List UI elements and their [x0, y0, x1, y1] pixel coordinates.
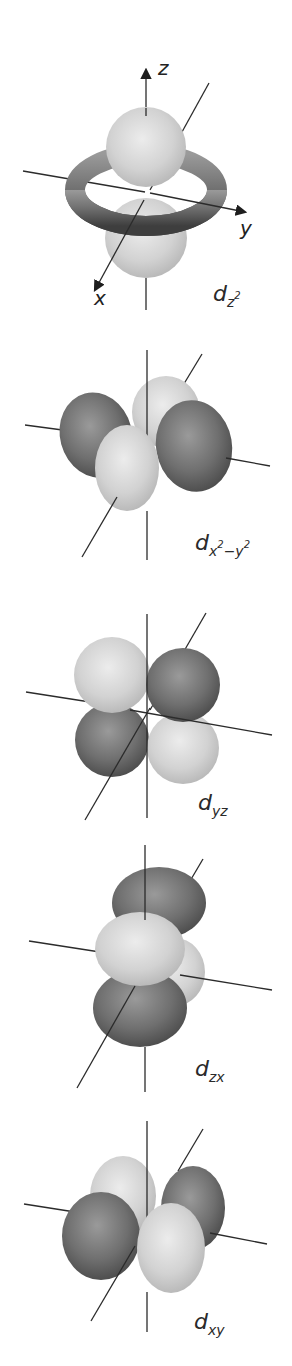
label-base: d [195, 1056, 209, 1081]
x-axis [82, 497, 117, 557]
orbital-panel-dzx: dzx [0, 840, 292, 1102]
lobe-upper-left-light [74, 637, 150, 713]
orbital-dz2-diagram [0, 0, 292, 325]
orbital-panel-dx2y2: dx2−y2 [0, 320, 292, 582]
axis-label-x: x [94, 288, 106, 308]
lobe-lower [105, 198, 187, 278]
lobe-upper-right-dark [146, 648, 220, 722]
label-base: d [213, 281, 227, 306]
orbital-label-dzx: dzx [195, 1058, 225, 1084]
label-base: d [194, 1309, 208, 1334]
orbital-panel-dyz: dyz [0, 580, 292, 842]
lobe-lower-right-light [147, 712, 219, 784]
axis-label-z: z [158, 58, 169, 78]
label-sub2: −y [224, 543, 244, 559]
orbital-panel-dz2: z y x dz2 [0, 0, 292, 325]
label-sup2: 2 [244, 539, 250, 550]
lobe-front-light [95, 425, 159, 511]
label-sub: zx [209, 1069, 225, 1085]
lobe-lower-left-dark [75, 703, 149, 777]
orbital-label-dxy: dxy [194, 1311, 225, 1337]
y-axis [210, 1233, 267, 1244]
label-sup: 2 [234, 290, 240, 301]
lobe-front-light [137, 1203, 205, 1293]
y-axis-left [24, 1204, 75, 1212]
orbital-panel-dxy: dxy [0, 1096, 292, 1366]
label-sub: yz [212, 803, 228, 819]
x-axis-back [178, 1129, 203, 1171]
orbital-label-dyz: dyz [198, 792, 228, 818]
y-axis [226, 458, 270, 466]
label-base: d [198, 790, 212, 815]
y-axis-left [29, 941, 100, 952]
orbital-dzx-diagram [0, 840, 292, 1102]
lobe-front-light [95, 912, 185, 986]
orbital-label-dz2: dz2 [213, 283, 241, 309]
label-base: d [195, 530, 209, 555]
axis-label-y: y [240, 218, 252, 238]
orbital-dxy-diagram [0, 1096, 292, 1366]
orbital-dyz-diagram [0, 580, 292, 842]
lobe-front-dark [62, 1192, 140, 1280]
label-sub: xy [208, 1322, 225, 1338]
orbital-label-dx2y2: dx2−y2 [195, 532, 250, 558]
lobe-upper [106, 107, 186, 187]
